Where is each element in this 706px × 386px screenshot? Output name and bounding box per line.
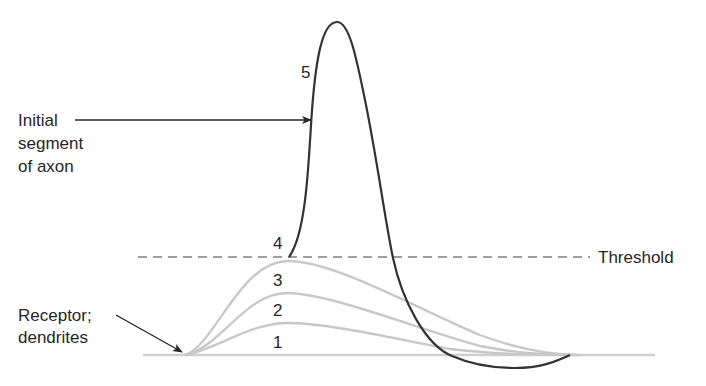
curve-label-3: 3 xyxy=(273,271,282,290)
neuron-potential-diagram: 1 2 3 4 5 Initial segment of axon Recept… xyxy=(0,0,706,386)
curve-label-1: 1 xyxy=(273,333,282,352)
receptor-label-line1: Receptor; xyxy=(18,306,92,325)
action-potential-curve xyxy=(289,22,570,368)
curve-label-2: 2 xyxy=(273,301,282,320)
curve-label-4: 4 xyxy=(273,234,282,253)
threshold-label: Threshold xyxy=(598,248,674,267)
curve-label-5: 5 xyxy=(301,63,310,82)
initial-segment-label-line2: segment xyxy=(18,134,83,153)
graded-potential-curve-3 xyxy=(185,261,580,355)
receptor-label-line2: dendrites xyxy=(18,328,88,347)
initial-segment-label-line3: of axon xyxy=(18,157,74,176)
initial-segment-label-line1: Initial xyxy=(18,111,58,130)
receptor-arrow-icon xyxy=(116,315,182,352)
